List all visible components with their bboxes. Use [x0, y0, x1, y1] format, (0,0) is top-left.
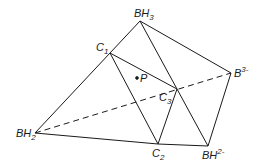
label-b3minus: B3-	[234, 65, 249, 79]
point-p-marker	[136, 77, 139, 80]
label-bh3: BH3	[134, 7, 154, 22]
edge-bh2-c1	[35, 53, 110, 133]
label-c2: C2	[152, 147, 165, 162]
carborane-cluster-diagram: C1 BH3 B3- BH2- C2 C3 BH2 P	[0, 0, 267, 163]
edge-bh2minus-c2	[158, 144, 208, 146]
label-p: P	[140, 72, 148, 84]
label-bh2minus: BH2-	[202, 147, 225, 161]
edge-c1-bh3	[110, 21, 140, 53]
label-c1: C1	[96, 41, 108, 56]
edge-c2-bh2	[35, 133, 158, 144]
edge-dashed-bh2-b3	[35, 73, 231, 133]
label-bh2: BH2	[16, 127, 36, 142]
edge-c1-c2	[110, 53, 158, 144]
label-c3: C3	[159, 91, 172, 106]
edge-b3-bh2minus	[208, 73, 231, 146]
